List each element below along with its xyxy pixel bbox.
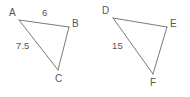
vertex-label-d: D xyxy=(102,6,109,16)
vertex-label-a: A xyxy=(9,8,16,18)
geometry-figure-canvas: ABC67.5DEF15 xyxy=(0,0,190,97)
vertex-label-c: C xyxy=(55,74,62,84)
edge-length-label-df: 15 xyxy=(112,41,123,51)
edge-de xyxy=(113,18,167,27)
edge-bc xyxy=(58,27,69,70)
edge-length-label-ab: 6 xyxy=(42,8,47,18)
edge-length-label-ac: 7.5 xyxy=(16,41,30,51)
edge-ab xyxy=(19,20,69,27)
edge-ef xyxy=(153,27,167,74)
vertex-label-f: F xyxy=(150,78,156,88)
vertex-label-b: B xyxy=(72,19,79,29)
vertex-label-e: E xyxy=(170,19,177,29)
